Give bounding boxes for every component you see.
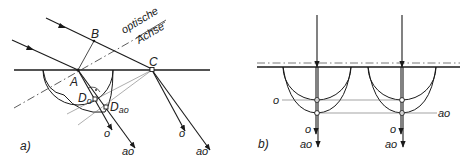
- ray-label-left-o: o: [305, 123, 311, 135]
- ray-label-right-ao: ao: [385, 138, 397, 150]
- label-A: A: [69, 75, 78, 89]
- label-B: B: [91, 27, 99, 41]
- marker-label-ao: ao: [438, 107, 450, 119]
- ray-label-right-o: o: [390, 123, 396, 135]
- caption-b: b): [258, 137, 269, 151]
- birefringence-diagram: A B C Do Dao optische Achse o ao o ao a): [0, 0, 473, 160]
- point-A: [76, 68, 79, 71]
- label-D-o: Do: [78, 91, 92, 106]
- ray-label-C-o: o: [179, 127, 185, 139]
- point-D-ao: [104, 105, 108, 109]
- caption-a: a): [20, 139, 31, 153]
- ray-label-A-ao: ao: [122, 145, 134, 157]
- label-C: C: [149, 55, 158, 69]
- panel-b: o ao o ao o ao b): [257, 15, 460, 151]
- incident-ray-lower-arrow-icon: [26, 45, 34, 50]
- ordinary-wavefront-right: [368, 67, 436, 100]
- point-D-o: [93, 97, 97, 101]
- ray-label-C-ao: ao: [196, 145, 208, 157]
- panel-a: A B C Do Dao optische Achse o ao o ao a): [12, 4, 210, 157]
- marker-label-o: o: [273, 94, 279, 106]
- ray-C-o: [152, 70, 185, 131]
- incident-ray-lower: [12, 40, 78, 70]
- ray-label-A-o: o: [104, 127, 110, 139]
- wavefront-AB: [78, 41, 94, 70]
- ordinary-wavefront-left: [283, 67, 351, 100]
- label-D-ao: Dao: [110, 100, 129, 115]
- ray-label-left-ao: ao: [300, 138, 312, 150]
